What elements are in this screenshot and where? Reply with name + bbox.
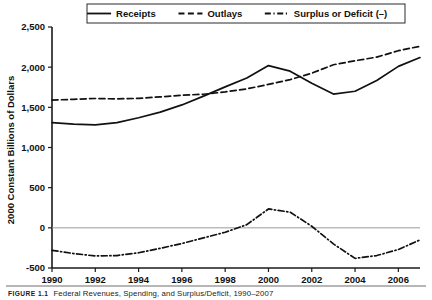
- y-axis-tick-labels: -50005001,0001,5002,0002,500: [21, 21, 45, 273]
- x-axis-tick-label: 1998: [215, 274, 236, 285]
- legend-label: Surplus or Deficit (–): [294, 8, 387, 19]
- x-axis-tick-label: 1994: [128, 274, 150, 285]
- legend-label: Outlays: [207, 8, 242, 19]
- chart-legend: ReceiptsOutlaysSurplus or Deficit (–): [87, 4, 405, 23]
- legend-label: Receipts: [116, 8, 156, 19]
- legend-items: ReceiptsOutlaysSurplus or Deficit (–): [87, 8, 387, 19]
- x-axis-tick-label: 1990: [41, 274, 62, 285]
- x-axis-tick-labels: 199019921994199619982000200220042006: [41, 274, 408, 285]
- figure-container: ReceiptsOutlaysSurplus or Deficit (–) -5…: [0, 0, 432, 300]
- y-axis-tick-label: -500: [26, 262, 45, 273]
- y-axis-title: 2000 Constant Billions of Dollars: [5, 76, 16, 224]
- y-axis-tick-label: 2,000: [21, 62, 45, 73]
- chart-series: [52, 46, 420, 258]
- x-axis-tick-label: 2002: [301, 274, 322, 285]
- x-axis-tick-label: 2000: [258, 274, 279, 285]
- line-chart: ReceiptsOutlaysSurplus or Deficit (–) -5…: [0, 0, 432, 300]
- y-axis-tick-label: 500: [29, 182, 45, 193]
- x-axis-tick-label: 1996: [171, 274, 192, 285]
- figure-number: FIGURE 1.1: [8, 290, 48, 297]
- y-axis-tick-label: 0: [40, 222, 45, 233]
- x-axis-tick-label: 1992: [85, 274, 106, 285]
- series-line-surplus-or-deficit: [52, 209, 420, 258]
- series-line-outlays: [52, 46, 420, 100]
- y-axis-tick-label: 1,500: [21, 102, 45, 113]
- y-axis-tick-label: 1,000: [21, 142, 45, 153]
- chart-axes: [48, 27, 420, 272]
- y-axis-tick-label: 2,500: [21, 21, 45, 32]
- figure-title: Federal Revenues, Spending, and Surplus/…: [53, 289, 273, 298]
- figure-caption: FIGURE 1.1Federal Revenues, Spending, an…: [8, 289, 428, 298]
- x-axis-tick-label: 2004: [344, 274, 366, 285]
- x-axis-tick-label: 2006: [388, 274, 409, 285]
